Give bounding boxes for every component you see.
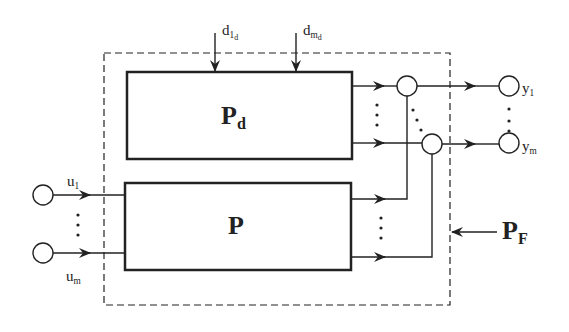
pd-block-label: Pd [221,101,246,133]
disturbance-label-1: d1d [222,22,238,42]
diagram-lines [0,0,569,332]
output-label-m: ym [522,138,537,156]
pf-label: PF [502,216,528,248]
input-label-1: u1 [67,173,79,191]
block-diagram: d1d dmd Pd P PF u1 um y1 ym [0,0,569,332]
output-label-1: y1 [522,80,534,98]
input-label-m: um [66,268,81,286]
disturbance-label-m: dmd [303,22,322,42]
p-block-label: P [228,211,244,241]
